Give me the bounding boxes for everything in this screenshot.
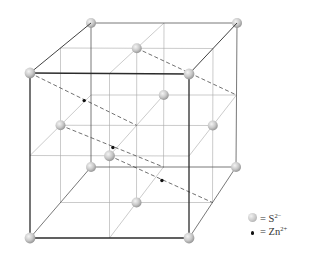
sulfide-ion xyxy=(208,121,218,131)
zinc-dot-icon xyxy=(251,231,255,235)
legend-label-sulfide: = S2− xyxy=(260,212,281,224)
sulfide-sphere-icon xyxy=(248,213,257,222)
sulfide-ion xyxy=(184,69,195,80)
sulfide-ion xyxy=(56,120,66,130)
sulfide-ion xyxy=(231,162,241,172)
sulfide-ion xyxy=(132,43,142,53)
sulfide-ion xyxy=(86,162,96,172)
sulfide-ion xyxy=(25,68,36,79)
sulfide-ion xyxy=(159,90,169,100)
legend-label-zinc: = Zn2+ xyxy=(260,225,287,237)
sulfide-ion xyxy=(104,150,115,161)
cube-front-edge xyxy=(30,73,189,74)
zinc-ion xyxy=(111,146,114,149)
sulfide-ion xyxy=(184,233,195,244)
sulfide-ion xyxy=(25,233,36,244)
sulfide-ions-back xyxy=(56,18,243,208)
sulfide-ion xyxy=(132,198,142,208)
zinc-ions xyxy=(82,71,189,182)
zinc-ion xyxy=(160,179,163,182)
zinc-ion xyxy=(82,99,85,102)
legend-item-sulfide: = S2− xyxy=(247,212,281,224)
legend-item-zinc: = Zn2+ xyxy=(247,225,287,237)
